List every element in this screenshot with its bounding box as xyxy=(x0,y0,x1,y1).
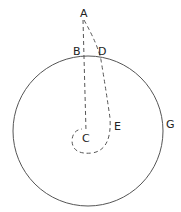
circle-g xyxy=(13,56,163,206)
label-g: G xyxy=(166,118,175,131)
label-b: B xyxy=(73,45,81,58)
label-a: A xyxy=(80,7,88,20)
diagram-canvas: A B D C E G xyxy=(0,0,181,212)
label-d: D xyxy=(98,45,106,58)
label-e: E xyxy=(114,120,121,133)
dashed-line-a-c xyxy=(83,20,86,131)
dashed-path-a-d-e-c xyxy=(72,20,110,153)
label-c: C xyxy=(82,132,90,145)
